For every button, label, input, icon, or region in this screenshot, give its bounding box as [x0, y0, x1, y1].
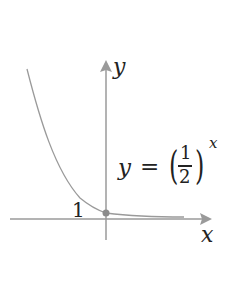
y-intercept-point: [103, 210, 110, 217]
y-axis-label: y: [113, 54, 125, 79]
fraction-denominator: 2: [179, 166, 190, 187]
intercept-label: 1: [72, 198, 85, 222]
function-lhs: y: [118, 154, 131, 180]
function-equals: =: [140, 153, 159, 179]
function-exponent: x: [209, 134, 217, 152]
graph-figure: y x 1 y = ( 1 2 ) x: [0, 0, 232, 301]
right-paren: ): [195, 142, 204, 188]
fraction-numerator: 1: [180, 142, 191, 163]
x-axis-label: x: [201, 222, 213, 247]
function-label: y = ( 1 2 ) x: [118, 138, 228, 198]
